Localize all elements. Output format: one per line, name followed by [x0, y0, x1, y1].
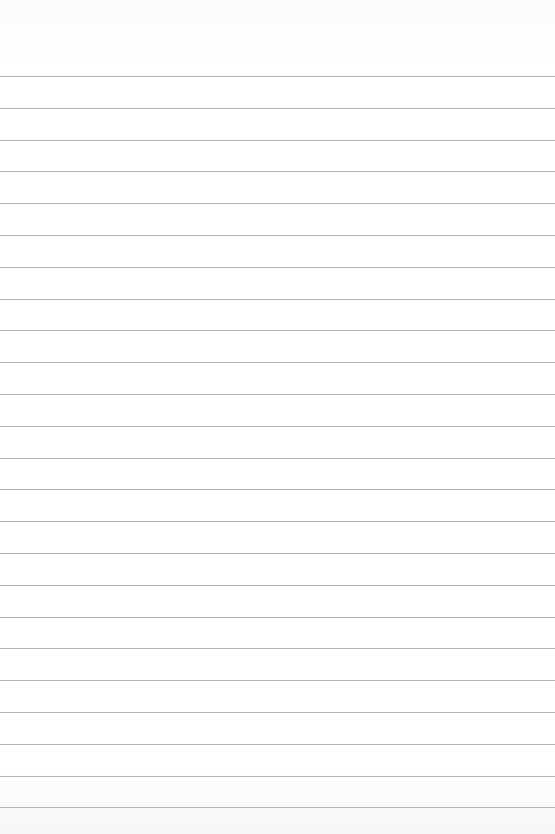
ruled-line [0, 744, 555, 745]
ruled-line [0, 171, 555, 172]
ruled-line [0, 585, 555, 586]
ruled-line [0, 712, 555, 713]
ruled-line [0, 776, 555, 777]
ruled-line [0, 458, 555, 459]
ruled-line [0, 807, 555, 808]
ruled-line [0, 330, 555, 331]
ruled-line [0, 76, 555, 77]
ruled-line [0, 362, 555, 363]
ruled-line [0, 553, 555, 554]
ruled-line [0, 299, 555, 300]
ruled-line [0, 521, 555, 522]
ruled-line [0, 648, 555, 649]
ruled-line [0, 617, 555, 618]
ruled-line [0, 680, 555, 681]
ruled-line [0, 394, 555, 395]
ruled-line [0, 235, 555, 236]
lined-paper-sheet [0, 0, 555, 834]
ruled-line [0, 140, 555, 141]
ruled-line [0, 108, 555, 109]
ruled-line [0, 267, 555, 268]
ruled-line [0, 203, 555, 204]
ruled-line [0, 489, 555, 490]
ruled-line [0, 426, 555, 427]
